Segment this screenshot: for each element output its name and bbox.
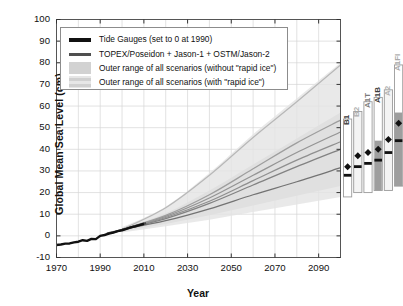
legend-swatch-range-no-rapid-ice [68,61,92,75]
y-tick-label: 60 [16,100,50,111]
x-axis-label: Year [56,287,340,299]
y-tick-label: 40 [16,143,50,154]
legend-item-range-rapid-ice: Outer range of all scenarios (with "rapi… [68,75,265,89]
scenario-bar-label-b1: B1 [342,115,351,125]
y-tick-label: 20 [16,186,50,197]
scenario-bar-label-a1b: A1B [373,87,382,103]
scenario-dash-a2 [385,151,393,154]
x-tick-label: 2010 [121,262,167,273]
y-tick-label: 90 [16,35,50,46]
legend-swatch-altimetry [68,47,92,61]
scenario-dash-a1b [374,159,382,162]
y-tick-label: 100 [16,13,50,24]
x-tick-label: 2050 [208,262,254,273]
y-tick-label: 70 [16,78,50,89]
scenario-bar-label-a1fi: A1FI [393,54,402,71]
scenario-dash-a1fi [395,139,403,142]
legend-swatch-range-rapid-ice [68,75,92,89]
legend-item-tide-gauges: Tide Gauges (set to 0 at 1990) [68,32,212,46]
y-tick-label: 80 [16,56,50,67]
scenario-dash-a1t [364,162,372,165]
x-tick-label: 1990 [77,262,123,273]
y-tick-label: 10 [16,208,50,219]
scenario-bar-a1t [364,102,372,193]
scenario-bar-b1 [344,119,352,197]
legend-label-altimetry: TOPEX/Poseidon + Jason-1 + OSTM/Jason-2 [99,49,270,59]
chart-legend: Tide Gauges (set to 0 at 1990) TOPEX/Pos… [60,27,288,90]
x-tick-label: 1970 [34,262,80,273]
legend-label-range-rapid-ice: Outer range of all scenarios (with "rapi… [99,77,265,87]
x-tick-label: 2090 [296,262,342,273]
legend-label-tide-gauges: Tide Gauges (set to 0 at 1990) [99,34,212,44]
scenario-dash-b2 [354,165,362,168]
y-tick-label: -10 [16,251,50,262]
legend-item-altimetry: TOPEX/Poseidon + Jason-1 + OSTM/Jason-2 [68,47,270,61]
scenario-bar-b2 [354,111,362,192]
sea-level-projection-figure: Global Mean Sea Level (cm) Year -1001020… [0,0,403,306]
y-tick-label: 50 [16,121,50,132]
legend-item-range-no-rapid-ice: Outer range of all scenarios (without "r… [68,61,276,75]
y-tick-label: 30 [16,164,50,175]
x-tick-label: 2070 [252,262,298,273]
scenario-bar-label-b2: B2 [352,107,361,117]
legend-label-range-no-rapid-ice: Outer range of all scenarios (without "r… [99,63,276,73]
scenario-dash-b1 [344,174,352,177]
x-tick-label: 2030 [165,262,211,273]
legend-swatch-tide-gauges [68,32,92,46]
y-tick-label: 0 [16,229,50,240]
scenario-bar-label-a2: A2 [383,86,392,96]
scenario-bar-label-a1t: A1T [363,93,372,108]
